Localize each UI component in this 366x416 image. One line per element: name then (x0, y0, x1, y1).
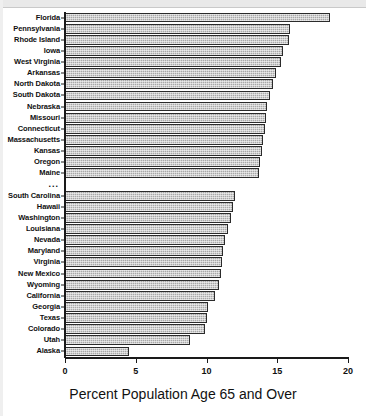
bar (65, 235, 225, 245)
category-label: Utah (44, 337, 60, 345)
bar (65, 68, 276, 78)
bar (65, 302, 208, 312)
category-label: West Virginia (14, 58, 60, 66)
category-label: Maryland (28, 248, 60, 256)
y-axis-line (64, 12, 66, 358)
bar-row: Massachusetts (65, 134, 348, 145)
bar-row: South Dakota (65, 90, 348, 101)
bar-row: Pennsylvania (65, 23, 348, 34)
bar-row: Oregon (65, 157, 348, 168)
axis-break-marker: ... (48, 180, 59, 189)
bar (65, 313, 207, 323)
category-label: Nebraska (27, 103, 60, 111)
category-label: California (26, 292, 60, 300)
category-label: Arkansas (27, 69, 60, 77)
category-label: Maine (39, 170, 60, 178)
bar-row: Maine (65, 168, 348, 179)
category-label: Hawaii (37, 203, 60, 211)
bar-row: Colorado (65, 324, 348, 335)
category-label: South Carolina (8, 192, 60, 200)
bar-chart: FloridaPennsylvaniaRhode IslandIowaWest … (0, 0, 366, 416)
bar (65, 324, 205, 334)
category-label: Iowa (44, 47, 60, 55)
axis-break-row: ... (65, 179, 348, 190)
category-label: Massachusetts (8, 136, 60, 144)
bar-row: Kansas (65, 146, 348, 157)
bar (65, 46, 283, 56)
bar (65, 102, 267, 112)
bar (65, 224, 228, 234)
bar (65, 168, 259, 178)
x-axis-tick (277, 357, 278, 363)
bar-row: Nebraska (65, 101, 348, 112)
bar (65, 35, 289, 45)
bar-row: California (65, 290, 348, 301)
bar-row: Florida (65, 12, 348, 23)
category-label: South Dakota (13, 92, 60, 100)
bar (65, 246, 223, 256)
bar-row: Maryland (65, 246, 348, 257)
bar-row: New Mexico (65, 268, 348, 279)
x-axis-tick-label: 20 (343, 366, 353, 376)
bar (65, 213, 231, 223)
bar (65, 79, 273, 89)
category-label: Florida (36, 14, 60, 22)
category-label: Wyoming (27, 281, 60, 289)
chart-page: FloridaPennsylvaniaRhode IslandIowaWest … (0, 0, 366, 416)
category-label: Georgia (32, 303, 60, 311)
x-axis-tick (207, 357, 208, 363)
bar (65, 157, 260, 167)
bar-row: Arkansas (65, 68, 348, 79)
bar (65, 291, 215, 301)
bar-row: Virginia (65, 257, 348, 268)
x-axis-tick (136, 357, 137, 363)
category-label: Colorado (28, 325, 60, 333)
bar-row: Texas (65, 312, 348, 323)
bar (65, 191, 235, 201)
bar (65, 13, 330, 23)
category-label: Oregon (34, 158, 60, 166)
bar (65, 91, 270, 101)
category-label: New Mexico (18, 270, 60, 278)
bar (65, 124, 265, 134)
bar (65, 347, 129, 357)
bar (65, 113, 266, 123)
bar-row: Washington (65, 212, 348, 223)
bar-row: Missouri (65, 112, 348, 123)
bar (65, 202, 233, 212)
bar-row: Iowa (65, 45, 348, 56)
category-label: Louisiana (26, 225, 60, 233)
bar-row: Utah (65, 335, 348, 346)
plot-area: FloridaPennsylvaniaRhode IslandIowaWest … (65, 12, 348, 357)
bar-row: West Virginia (65, 57, 348, 68)
bar-row: Georgia (65, 301, 348, 312)
category-label: Connecticut (18, 125, 60, 133)
bar (65, 135, 263, 145)
bar (65, 146, 262, 156)
category-label: Missouri (30, 114, 60, 122)
bar-row: North Dakota (65, 79, 348, 90)
category-label: Pennsylvania (13, 25, 60, 33)
bar-row: Alaska (65, 346, 348, 357)
x-axis-tick-label: 15 (272, 366, 282, 376)
x-axis-tick-label: 10 (201, 366, 211, 376)
bar-row: Nevada (65, 235, 348, 246)
bar (65, 24, 290, 34)
bar-row: Hawaii (65, 201, 348, 212)
bar (65, 57, 281, 67)
category-label: Rhode Island (14, 36, 60, 44)
category-label: Kansas (34, 147, 60, 155)
category-label: Virginia (33, 259, 60, 267)
x-axis-tick (65, 357, 66, 363)
x-axis-tick-label: 0 (62, 366, 67, 376)
bar-row: Louisiana (65, 223, 348, 234)
bar (65, 335, 190, 345)
bar (65, 280, 219, 290)
category-label: Alaska (36, 348, 60, 356)
bar-row: Rhode Island (65, 34, 348, 45)
x-axis-tick (348, 357, 349, 363)
category-label: Texas (40, 314, 60, 322)
bar-row: Connecticut (65, 123, 348, 134)
bar (65, 269, 221, 279)
category-label: North Dakota (14, 81, 60, 89)
